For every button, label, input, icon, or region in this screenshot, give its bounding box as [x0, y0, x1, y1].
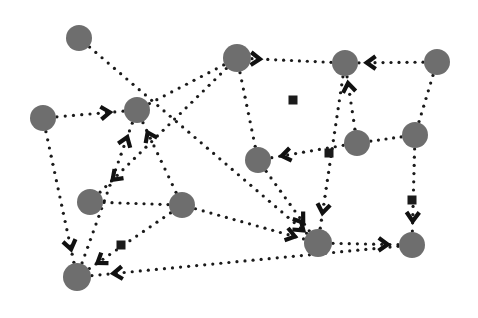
edge-dot	[306, 60, 309, 63]
node-n9[interactable]	[77, 189, 103, 215]
edge-dot	[163, 94, 166, 97]
edge-dot	[128, 129, 131, 132]
node-n7[interactable]	[344, 130, 370, 156]
edge-dot	[86, 246, 89, 249]
edge-dot	[97, 112, 100, 115]
edge-dot	[64, 220, 67, 223]
edge-dot	[231, 168, 234, 171]
node-n6[interactable]	[402, 122, 428, 148]
edge-dot	[322, 203, 325, 206]
node-n0[interactable]	[66, 25, 92, 51]
edge-dot	[55, 179, 58, 182]
edge-dot	[356, 249, 359, 252]
edge-dot	[284, 256, 287, 259]
edge-dot	[167, 123, 170, 126]
node-n13[interactable]	[63, 263, 91, 291]
edge-dot	[284, 196, 287, 199]
node-n2[interactable]	[124, 97, 150, 123]
edge-dot	[338, 99, 341, 102]
edge-dot	[185, 83, 188, 86]
edge-dot	[405, 61, 408, 64]
edge-dot	[314, 60, 317, 63]
edge-dot	[384, 137, 387, 140]
node-n12[interactable]	[399, 232, 425, 258]
edge-dot	[413, 156, 416, 159]
graph-svg	[0, 0, 478, 318]
node-n5[interactable]	[424, 49, 450, 75]
edge-dot	[144, 146, 147, 149]
nodes-layer	[30, 25, 450, 291]
edge-dot	[289, 203, 292, 206]
edge-dot	[121, 168, 124, 171]
edge-dot	[163, 267, 166, 270]
edge-dot	[212, 152, 215, 155]
edge-dot	[251, 259, 254, 262]
edge-dot	[171, 183, 174, 186]
edge-dot	[211, 262, 214, 265]
edge-dot	[340, 83, 343, 86]
edge-dot	[237, 173, 240, 176]
edge-dot	[389, 61, 392, 64]
edge-dot	[248, 222, 251, 225]
edge-n5-n6	[417, 74, 434, 123]
edge-dot	[245, 104, 248, 107]
edge-dot	[290, 59, 293, 62]
edge-dot	[335, 115, 338, 118]
edge-dot	[332, 251, 335, 254]
edge-dot	[364, 242, 367, 245]
edge-dot	[242, 87, 245, 90]
edge-dot	[328, 163, 331, 166]
edge-dot	[155, 221, 158, 224]
edge-dot	[300, 254, 303, 257]
edge-n9-n10	[102, 201, 169, 206]
edge-dot	[163, 168, 166, 171]
edge-dot	[263, 227, 266, 230]
edge-dot	[104, 185, 107, 188]
edge-dot	[101, 258, 104, 261]
edge-dot	[213, 78, 216, 81]
edge-dot	[349, 101, 352, 104]
edge-dot	[131, 83, 134, 86]
edge-dot	[219, 73, 222, 76]
node-n11[interactable]	[304, 229, 332, 257]
edge-dot	[352, 119, 355, 122]
edge-dot	[94, 222, 97, 225]
edge-dot	[292, 255, 295, 258]
edge-dot	[293, 209, 296, 212]
edge-dot	[318, 148, 321, 151]
node-n3[interactable]	[223, 44, 251, 72]
edge-dot	[207, 84, 210, 87]
edge-n12-n13	[90, 245, 399, 277]
edge-dot	[51, 163, 54, 166]
edge-dot	[169, 115, 172, 118]
square-marker	[408, 196, 417, 205]
edge-dot	[57, 187, 60, 190]
edge-dot	[67, 236, 70, 239]
edge-dot	[274, 58, 277, 61]
edge-dot	[171, 266, 174, 269]
edge-dot	[202, 89, 205, 92]
node-n8[interactable]	[245, 147, 271, 173]
edge-dot	[286, 216, 289, 219]
edge-dot	[373, 61, 376, 64]
edge-dot	[240, 220, 243, 223]
node-n1[interactable]	[30, 105, 56, 131]
edge-dot	[323, 195, 326, 198]
edge-dot	[50, 155, 53, 158]
edge-dot	[110, 201, 113, 204]
graph-canvas	[0, 0, 478, 318]
edge-n6-n7	[369, 135, 402, 142]
edge-dot	[412, 172, 415, 175]
edge-dot	[92, 230, 95, 233]
node-n4[interactable]	[332, 50, 358, 76]
edge-dot	[127, 162, 130, 165]
edge-dot	[411, 213, 414, 216]
edge-dot	[203, 263, 206, 266]
edge-dot	[225, 216, 228, 219]
edge-n1-n2	[55, 110, 124, 119]
edge-n2-n3	[148, 63, 225, 105]
edge-dot	[249, 184, 252, 187]
edge-dot	[340, 242, 343, 245]
edge-dot	[139, 151, 142, 154]
node-n10[interactable]	[169, 192, 195, 218]
